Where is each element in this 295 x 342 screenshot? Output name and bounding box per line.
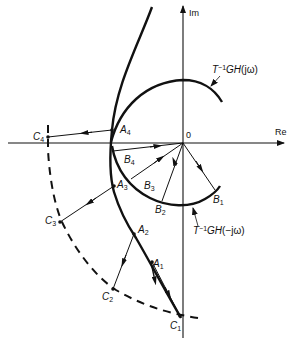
diagram-graphics <box>0 0 295 342</box>
point-label-a4: A4 <box>120 125 131 136</box>
point-label-b4: B4 <box>124 155 135 166</box>
point-label-c4: C4 <box>33 132 44 143</box>
real-axis-label: Re <box>275 128 287 137</box>
point-label-c2: C2 <box>102 292 113 303</box>
lower-label-pointer <box>193 208 198 226</box>
upper-label-arg: (jω) <box>241 64 258 75</box>
lower-label-sup: −1 <box>199 225 207 232</box>
origin-label: 0 <box>186 131 191 140</box>
imag-axis-label: Im <box>189 9 199 18</box>
c-locus-dashed-arc <box>48 125 198 318</box>
point-label-b1: B1 <box>213 195 224 206</box>
lower-label-main: GH <box>207 225 222 236</box>
lower-label-arg: (−jω) <box>222 225 245 236</box>
point-label-a2: A2 <box>138 225 149 236</box>
nyquist-diagram: Im Re 0 T−1GH(jω) T−1GH(−jω) A4 A3 A2 A1… <box>0 0 295 342</box>
vector-a3-c3 <box>60 186 114 222</box>
point-label-b3: B3 <box>144 181 155 192</box>
upper-label-pointer <box>211 76 220 86</box>
point-label-c1: C1 <box>170 321 181 332</box>
a-locus-curve <box>110 7 181 318</box>
vector-o-b2 <box>162 143 183 201</box>
point-label-a3: A3 <box>117 180 128 191</box>
lower-locus-label: T−1GH(−jω) <box>193 225 245 236</box>
point-label-c3: C3 <box>45 216 56 227</box>
vector-a4-c4 <box>48 130 112 137</box>
upper-label-sup: −1 <box>218 64 226 71</box>
point-label-a1: A1 <box>153 259 164 270</box>
point-label-b2: B2 <box>155 205 166 216</box>
upper-locus-label: T−1GH(jω) <box>212 64 258 75</box>
upper-label-main: GH <box>226 64 241 75</box>
